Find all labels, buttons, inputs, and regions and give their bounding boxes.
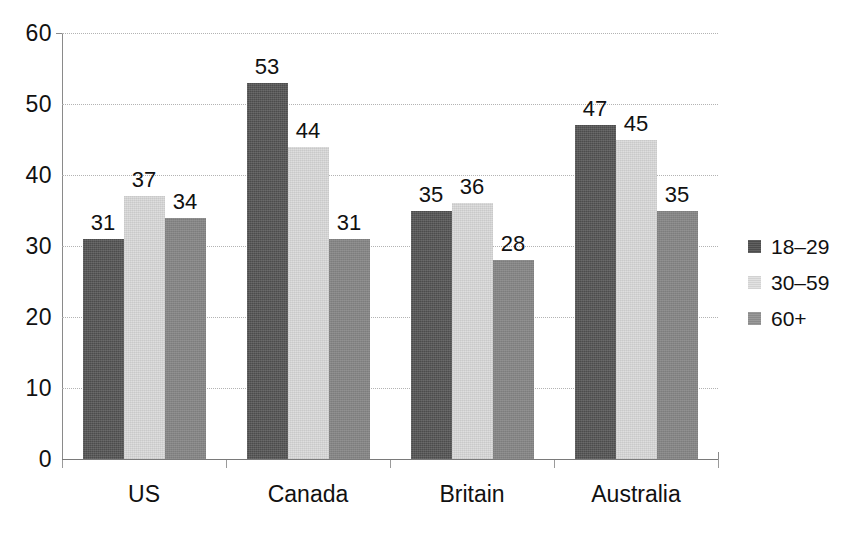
gridline-0 xyxy=(62,459,718,460)
y-tick-label: 0 xyxy=(6,448,52,471)
x-axis-category-label: Australia xyxy=(551,481,721,507)
bar-value-label: 44 xyxy=(278,120,338,142)
legend-item: 30–59 xyxy=(748,264,853,300)
x-axis-category-label: Britain xyxy=(387,481,557,507)
bar xyxy=(575,125,616,459)
bar-value-label: 31 xyxy=(319,212,379,234)
x-axis-tick xyxy=(390,459,391,468)
bar-value-label: 34 xyxy=(155,191,215,213)
y-tick-label: 30 xyxy=(6,235,52,258)
x-axis-tick xyxy=(62,459,63,468)
legend-item: 18–29 xyxy=(748,228,853,264)
legend-label: 60+ xyxy=(771,308,807,329)
y-tick-label: 60 xyxy=(6,22,52,45)
bar-value-label: 36 xyxy=(442,176,502,198)
bar-value-label: 28 xyxy=(483,233,543,255)
y-axis-tick-labels: 0102030405060 xyxy=(0,0,52,536)
x-axis-tick xyxy=(226,459,227,468)
x-axis-category-label: US xyxy=(59,481,229,507)
legend-swatch-icon xyxy=(748,240,761,253)
x-axis-category-label: Canada xyxy=(223,481,393,507)
chart-page: 0102030405060 313734534431353628474535 U… xyxy=(0,0,857,536)
y-tick-label: 40 xyxy=(6,164,52,187)
x-axis-tick xyxy=(718,459,719,468)
bar-value-label: 35 xyxy=(647,184,707,206)
bar xyxy=(657,211,698,460)
legend-label: 18–29 xyxy=(771,236,829,257)
legend-label: 30–59 xyxy=(771,272,829,293)
chart-legend: 18–2930–5960+ xyxy=(748,228,853,336)
bar-value-label: 31 xyxy=(73,212,133,234)
legend-item: 60+ xyxy=(748,300,853,336)
bar-value-label: 53 xyxy=(237,56,297,78)
legend-swatch-icon xyxy=(748,276,761,289)
bar-group xyxy=(62,33,718,459)
y-tick-label: 10 xyxy=(6,377,52,400)
x-axis-tick xyxy=(554,459,555,468)
y-tick-label: 50 xyxy=(6,93,52,116)
bar-value-label: 45 xyxy=(606,113,666,135)
plot-area xyxy=(62,33,718,459)
legend-swatch-icon xyxy=(748,312,761,325)
y-tick-label: 20 xyxy=(6,306,52,329)
bar-value-label: 37 xyxy=(114,169,174,191)
